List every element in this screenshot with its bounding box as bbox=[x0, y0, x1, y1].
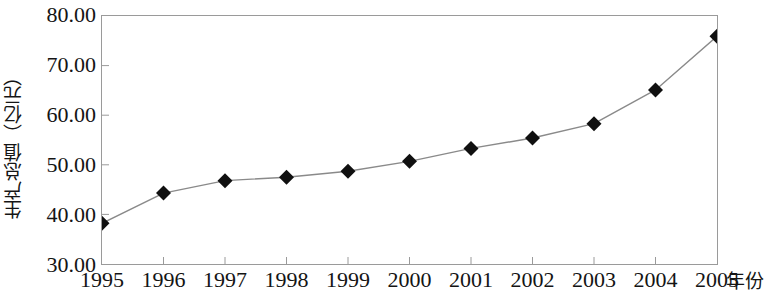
x-axis-tick-labels: 1995199619971998199920002001200220032004… bbox=[0, 268, 779, 305]
y-axis-tick-labels: 30.0040.0050.0060.0070.0080.00 bbox=[22, 0, 96, 305]
line-chart-svg bbox=[102, 16, 717, 264]
x-axis-title: 年份 bbox=[726, 272, 764, 291]
data-line bbox=[102, 36, 717, 223]
y-axis-tick-label: 70.00 bbox=[24, 54, 96, 76]
y-axis-tick-label: 50.00 bbox=[24, 154, 96, 176]
y-axis-tick-label: 60.00 bbox=[24, 104, 96, 126]
plot-area bbox=[101, 15, 718, 265]
data-point-marker bbox=[402, 154, 417, 169]
data-point-marker bbox=[464, 141, 479, 156]
y-axis-title-text: 生产总值（亿元） bbox=[4, 67, 23, 219]
data-point-marker bbox=[218, 173, 233, 188]
data-point-marker bbox=[102, 216, 110, 231]
data-point-marker bbox=[156, 186, 171, 201]
chart-figure: 生产总值（亿元） 30.0040.0050.0060.0070.0080.00 … bbox=[0, 0, 779, 305]
y-axis-tick-label: 40.00 bbox=[24, 204, 96, 226]
data-point-marker bbox=[587, 116, 602, 131]
data-point-marker bbox=[279, 170, 294, 185]
data-point-marker bbox=[341, 164, 356, 179]
data-point-marker bbox=[525, 131, 540, 146]
y-axis-tick-label: 80.00 bbox=[24, 4, 96, 26]
